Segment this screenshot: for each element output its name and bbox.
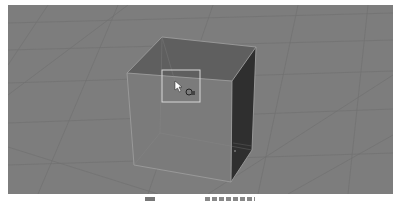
figure-caption — [0, 196, 399, 203]
3d-viewport[interactable] — [8, 5, 393, 194]
caption-truncated-text — [205, 197, 255, 201]
viewport-canvas[interactable] — [8, 5, 393, 194]
cube-object[interactable] — [127, 37, 256, 182]
cube-point-marker — [234, 150, 236, 152]
caption-figure-number — [145, 197, 155, 201]
